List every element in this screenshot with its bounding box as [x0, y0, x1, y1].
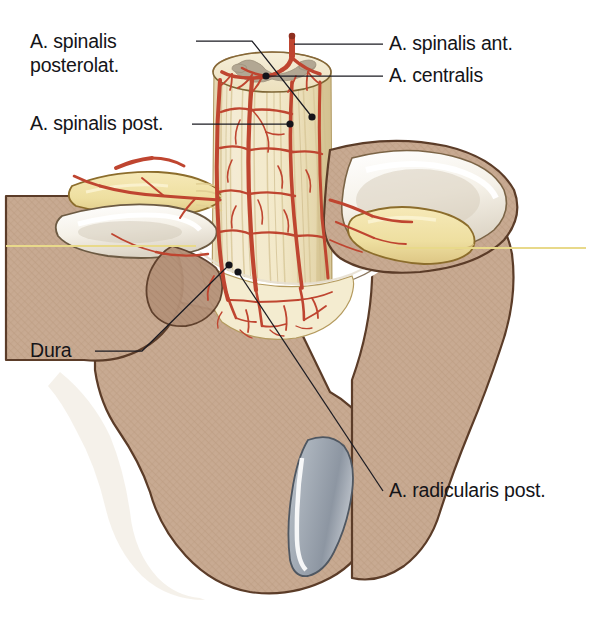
figure-canvas: A. spinalis posterolat. A. spinalis post…	[0, 0, 593, 618]
label-text-line1: A. spinalis	[30, 30, 117, 52]
anatomical-figure: A. spinalis posterolat. A. spinalis post…	[0, 0, 593, 618]
label-text: A. radicularis post.	[389, 479, 545, 501]
label-text: A. spinalis post.	[30, 112, 163, 134]
leader-dot	[286, 120, 293, 127]
leader-dot	[234, 268, 241, 275]
articular-facet-left	[56, 204, 217, 258]
label-text: A. spinalis ant.	[389, 32, 513, 54]
label-text-line2: posterolat.	[30, 54, 119, 76]
leader-dot	[262, 72, 269, 79]
label-text: A. centralis	[389, 64, 484, 86]
leader-dot	[225, 261, 232, 268]
label-text: Dura	[30, 339, 72, 361]
leader-dot	[308, 113, 315, 120]
